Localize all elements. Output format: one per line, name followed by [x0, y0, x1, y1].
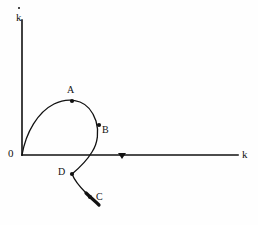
x-axis-direction-arrow-icon [118, 153, 126, 159]
point-marker-a [70, 99, 74, 103]
point-marker-b [97, 123, 101, 127]
phase-trajectory-curve [22, 100, 99, 205]
point-label-a: A [67, 85, 74, 95]
phase-diagram-figure: k k 0 A B C D [0, 0, 258, 225]
horizontal-axis-label: k [242, 149, 248, 160]
point-label-c: C [96, 192, 103, 202]
point-label-d: D [58, 167, 65, 177]
vertical-axis-label: k [16, 12, 22, 23]
vertical-axis-label-text: k [16, 11, 22, 23]
point-marker-c [88, 195, 92, 199]
point-label-b: B [102, 125, 109, 135]
plot-canvas [0, 0, 258, 225]
origin-label: 0 [8, 148, 14, 159]
overdot-icon [18, 7, 20, 9]
point-marker-d [70, 172, 74, 176]
